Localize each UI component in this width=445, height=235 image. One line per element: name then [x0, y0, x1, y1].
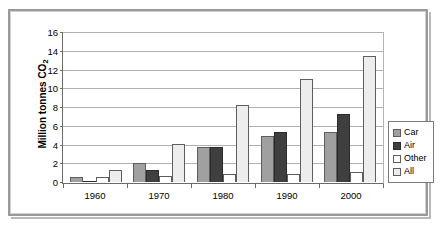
- legend-label: Other: [404, 154, 427, 163]
- bar-air-1960: [83, 181, 96, 182]
- bar-car-2000: [324, 132, 337, 182]
- x-axis-tick-mark: [319, 184, 320, 188]
- bar-other-1990: [287, 174, 300, 182]
- x-axis-label-2000: 2000: [319, 190, 383, 201]
- legend-item-car[interactable]: Car: [393, 126, 430, 139]
- bar-air-1970: [146, 170, 159, 182]
- legend-swatch-car-icon: [393, 129, 401, 137]
- plot-area: 0246810121416: [62, 32, 384, 184]
- bar-air-1990: [274, 132, 287, 182]
- legend-swatch-all-icon: [393, 168, 401, 176]
- legend-item-air[interactable]: Air: [393, 139, 430, 152]
- bar-car-1960: [70, 177, 83, 182]
- bar-all-1990: [300, 79, 313, 182]
- y-axis-tick-mark: [60, 70, 63, 71]
- gridline: 0: [63, 182, 383, 183]
- legend-swatch-other-icon: [393, 155, 401, 163]
- y-axis-tick-label: 8: [53, 102, 58, 113]
- bar-car-1970: [133, 163, 146, 182]
- y-axis-tick-mark: [60, 32, 63, 33]
- legend-label: Car: [404, 128, 419, 137]
- legend-label: All: [404, 167, 414, 176]
- legend-label: Air: [404, 141, 415, 150]
- bar-group-1990: [255, 34, 319, 182]
- bar-all-2000: [363, 56, 376, 182]
- legend: CarAirOtherAll: [388, 121, 434, 183]
- y-axis-tick-mark: [60, 145, 63, 146]
- y-axis-tick-label: 2: [53, 158, 58, 169]
- y-axis-tick-label: 14: [47, 45, 58, 56]
- y-axis-tick-label: 10: [47, 83, 58, 94]
- y-axis-tick-mark: [60, 182, 63, 183]
- x-axis-label-1960: 1960: [63, 190, 127, 201]
- x-axis-tick-mark: [127, 184, 128, 188]
- bars-layer: [64, 34, 382, 182]
- y-axis-tick-label: 0: [53, 177, 58, 188]
- legend-item-other[interactable]: Other: [393, 152, 430, 165]
- x-axis-label-1970: 1970: [127, 190, 191, 201]
- plot-wrapper: 0246810121416 19601970198019902000: [62, 32, 384, 195]
- x-axis-label-1980: 1980: [191, 190, 255, 201]
- bar-group-1970: [128, 34, 192, 182]
- bar-group-2000: [318, 34, 382, 182]
- y-axis-title: Million tonnes CO2: [37, 39, 51, 169]
- bar-group-1980: [191, 34, 255, 182]
- bar-other-1960: [96, 177, 109, 182]
- y-axis-tick-mark: [60, 51, 63, 52]
- y-axis-tick-label: 12: [47, 64, 58, 75]
- bar-other-1980: [223, 174, 236, 182]
- frame-shadow-right: [429, 12, 431, 218]
- legend-swatch-air-icon: [393, 142, 401, 150]
- bar-air-1980: [210, 147, 223, 182]
- y-axis-tick-label: 4: [53, 139, 58, 150]
- bar-car-1990: [261, 136, 274, 182]
- y-axis-tick-mark: [60, 163, 63, 164]
- bar-car-1980: [197, 147, 210, 182]
- x-axis-tick-mark: [383, 184, 384, 188]
- frame-shadow-bottom: [11, 217, 431, 219]
- y-axis-tick-mark: [60, 107, 63, 108]
- x-axis-tick-mark: [63, 184, 64, 188]
- gridline: 16: [63, 32, 383, 33]
- y-axis-title-subscript: 2: [41, 59, 50, 63]
- chart-frame: Million tonnes CO2 0246810121416 1960197…: [8, 9, 428, 216]
- bar-air-2000: [337, 114, 350, 182]
- bar-all-1980: [236, 105, 249, 182]
- x-axis-tick-marks: [63, 184, 383, 189]
- x-axis-label-1990: 1990: [255, 190, 319, 201]
- y-axis-title-text: Million tonnes CO: [37, 64, 48, 149]
- bar-all-1960: [109, 170, 122, 182]
- bar-all-1970: [172, 144, 185, 182]
- y-axis-tick-label: 16: [47, 27, 58, 38]
- y-axis-tick-mark: [60, 88, 63, 89]
- x-axis-labels: 19601970198019902000: [63, 190, 383, 201]
- legend-item-all[interactable]: All: [393, 165, 430, 178]
- x-axis-tick-mark: [191, 184, 192, 188]
- bar-other-2000: [350, 172, 363, 182]
- x-axis-tick-mark: [255, 184, 256, 188]
- bar-other-1970: [159, 176, 172, 182]
- y-axis-tick-mark: [60, 126, 63, 127]
- y-axis-tick-label: 6: [53, 120, 58, 131]
- bar-group-1960: [64, 34, 128, 182]
